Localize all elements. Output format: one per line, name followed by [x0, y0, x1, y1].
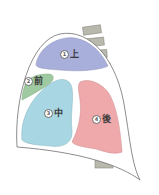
label-anterior-text: 前	[34, 77, 43, 86]
number-badge-4: 4	[92, 115, 101, 124]
vertebra-1	[83, 25, 102, 35]
label-posterior-text: 後	[102, 115, 111, 124]
label-anterior: 2 前	[24, 77, 43, 86]
number-badge-1: 1	[60, 50, 69, 59]
number-badge-3: 3	[44, 109, 53, 118]
label-upper: 1 上	[60, 50, 79, 59]
label-posterior: 4 後	[92, 115, 111, 124]
lung-segment-diagram	[0, 0, 159, 195]
number-badge-2: 2	[24, 77, 33, 86]
label-upper-text: 上	[70, 50, 79, 59]
label-middle: 3 中	[44, 109, 63, 118]
label-middle-text: 中	[54, 109, 63, 118]
